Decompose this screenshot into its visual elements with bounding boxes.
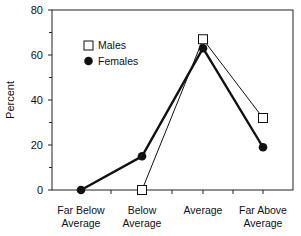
males-line — [142, 39, 263, 190]
y-tick-label: 40 — [31, 94, 43, 106]
females-data-point — [138, 152, 147, 161]
females-data-point — [77, 186, 86, 195]
y-tick-label: 60 — [31, 49, 43, 61]
x-category-label: Average — [184, 204, 223, 216]
y-tick-label: 20 — [31, 139, 43, 151]
males-data-point — [199, 35, 208, 44]
x-axis-ticks: Far BelowAverageBelowAverageAverageFar A… — [57, 190, 287, 229]
x-category-label: BelowAverage — [123, 204, 162, 229]
females-legend-marker — [84, 57, 93, 66]
y-tick-label: 0 — [37, 184, 43, 196]
y-tick-label: 80 — [31, 4, 43, 16]
x-category-label: Far AboveAverage — [239, 204, 287, 229]
males-legend-marker — [84, 41, 93, 50]
males-data-point — [259, 114, 268, 123]
females-data-point — [259, 143, 268, 152]
y-axis-title: Percent — [4, 81, 16, 119]
females-line — [81, 48, 263, 190]
legend-label-females: Females — [98, 55, 138, 67]
females-data-point — [199, 44, 208, 53]
line-chart: 020406080 Far BelowAverageBelowAverageAv… — [0, 0, 301, 236]
legend: Males Females — [84, 39, 138, 67]
x-category-label: Far BelowAverage — [57, 204, 105, 229]
legend-label-males: Males — [98, 39, 126, 51]
y-axis-ticks: 020406080 — [31, 4, 52, 196]
males-data-point — [138, 186, 147, 195]
